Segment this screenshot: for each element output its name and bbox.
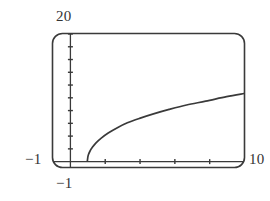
figure-background xyxy=(0,0,270,201)
chart-figure: 20 −1 −1 10 xyxy=(0,0,270,201)
y-axis-max-label: 20 xyxy=(56,9,72,24)
y-axis-min-label: −1 xyxy=(25,152,42,167)
x-axis-max-label: 10 xyxy=(249,152,265,167)
x-axis-min-label: −1 xyxy=(56,176,73,191)
plot-canvas xyxy=(0,0,270,201)
